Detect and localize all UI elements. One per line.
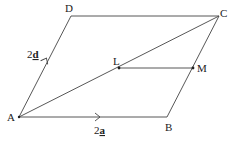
label-a: A [7, 111, 15, 123]
vector-label-2d: 2d [27, 48, 39, 60]
edge-da [19, 16, 71, 117]
point-m [192, 67, 195, 70]
vector-2a-symbol: a [100, 124, 106, 136]
label-m: M [197, 62, 207, 74]
label-b: B [165, 121, 172, 133]
point-a [18, 116, 20, 118]
label-l: L [113, 55, 120, 67]
parallelogram-diagram: A B C D L M 2d 2a [0, 0, 236, 142]
vector-label-2a: 2a [94, 124, 106, 136]
label-d: D [65, 2, 73, 14]
vector-2d-symbol: d [33, 48, 39, 60]
edge-bc [167, 16, 219, 117]
point-l [118, 67, 121, 70]
label-c: C [220, 7, 227, 19]
